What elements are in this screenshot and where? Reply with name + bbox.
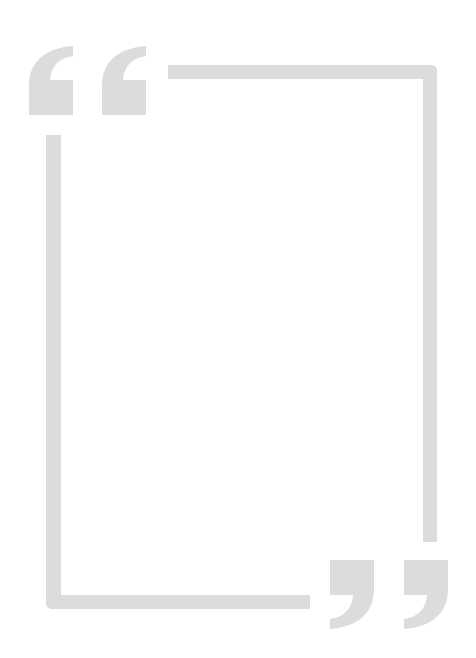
frame-top-line <box>168 65 437 79</box>
frame-bottom-line <box>46 595 310 609</box>
quote-frame <box>0 0 476 658</box>
frame-right-line <box>423 65 437 542</box>
closing-quote-icon <box>330 560 448 630</box>
quote-body-text <box>80 110 400 570</box>
frame-left-line <box>46 135 61 609</box>
opening-quote-icon <box>29 46 147 116</box>
